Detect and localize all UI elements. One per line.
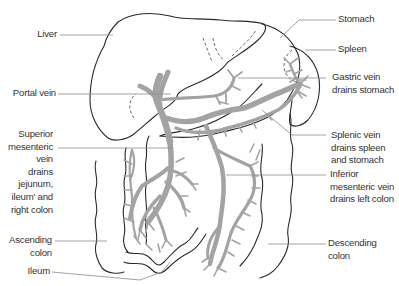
label-inferior-mesenteric-vein: Inferior mesenteric vein drains left col…	[330, 168, 399, 206]
ascending-colon-outline	[95, 136, 149, 273]
label-ascending-colon: Ascending colon	[0, 234, 52, 259]
label-stomach: Stomach	[338, 13, 398, 26]
splenic-vein	[166, 76, 310, 140]
inferior-mesenteric-vein	[202, 126, 260, 276]
label-splenic-vein: Splenic vein drains spleen and stomach	[331, 129, 399, 167]
label-portal-vein: Portal vein	[0, 87, 56, 100]
descending-colon-outline	[240, 114, 293, 278]
portal-vein	[140, 72, 170, 142]
label-descending-colon: Descending colon	[328, 237, 399, 262]
label-gastric-vein: Gastric vein drains stomach	[332, 71, 399, 96]
label-spleen: Spleen	[338, 43, 398, 56]
superior-mesenteric-vein	[124, 142, 198, 252]
leader-lines	[52, 20, 336, 280]
label-liver: Liver	[10, 28, 57, 41]
label-superior-mesenteric-vein: Superior mesenteric vein drains jejunum,…	[0, 128, 53, 216]
label-ileum: Ileum	[0, 265, 50, 278]
